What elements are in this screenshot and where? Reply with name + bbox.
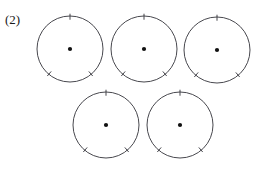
center-dot bbox=[68, 47, 72, 51]
center-dot bbox=[178, 123, 182, 127]
center-dot bbox=[104, 123, 108, 127]
circle-group-circle-4 bbox=[73, 90, 139, 158]
circle-group-circle-3 bbox=[184, 15, 250, 83]
circles-diagram bbox=[0, 0, 262, 171]
center-dot bbox=[142, 47, 146, 51]
circle-group-circle-5 bbox=[147, 90, 213, 158]
circles-layer bbox=[37, 14, 250, 158]
figure-container: (2) bbox=[0, 0, 262, 171]
circle-group-circle-2 bbox=[111, 14, 177, 82]
center-dot bbox=[215, 48, 219, 52]
circle-group-circle-1 bbox=[37, 14, 103, 82]
